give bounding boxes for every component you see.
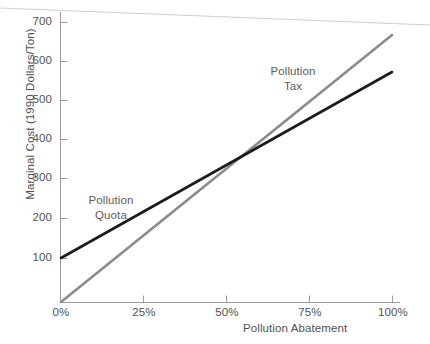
x-tick-label-0: 0%	[37, 306, 85, 318]
series-label-pollution-tax: Pollution Tax	[255, 64, 331, 94]
series-label-tax-line2: Tax	[255, 79, 331, 94]
x-tick-label-50: 50%	[201, 306, 253, 318]
series-line-pollution-quota	[61, 72, 392, 258]
y-axis-ticks	[61, 23, 68, 259]
x-tick-label-75: 75%	[284, 306, 336, 318]
series-line-pollution-tax	[61, 35, 392, 302]
y-tick-label-100: 100	[8, 251, 52, 263]
y-axis-title: Marginal Cost (1990 Dollars/Ton)	[24, 14, 36, 214]
series-label-quota-line1: Pollution	[73, 193, 149, 208]
x-tick-label-100: 100%	[364, 306, 422, 318]
series-label-tax-line1: Pollution	[255, 64, 331, 79]
x-axis-ticks	[61, 296, 393, 303]
series-label-pollution-quota: Pollution Quota	[73, 193, 149, 223]
series-label-quota-line2: Quota	[73, 208, 149, 223]
chart-plot-area	[0, 0, 430, 344]
x-tick-label-25: 25%	[118, 306, 170, 318]
x-axis-title: Pollution Abatement	[243, 322, 423, 334]
chart-figure: 700 600 500 400 300 200 100 0% 25% 50% 7…	[0, 0, 430, 344]
